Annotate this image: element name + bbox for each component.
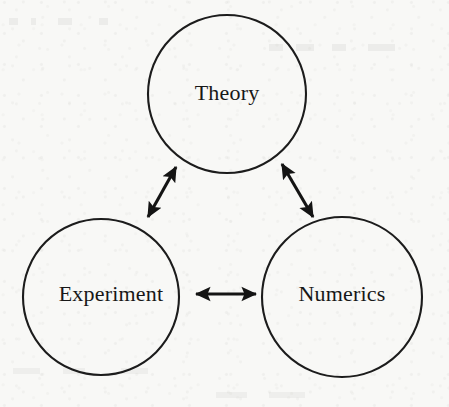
experiment-label: Experiment — [59, 281, 164, 306]
arrow-theory-experiment[interactable] — [148, 167, 176, 217]
diagram-canvas: Theory Experiment Numerics — [0, 0, 449, 407]
node-experiment[interactable]: Experiment — [23, 219, 179, 375]
numerics-label: Numerics — [298, 281, 385, 306]
arrow-theory-numerics[interactable] — [282, 164, 313, 217]
theory-label: Theory — [195, 80, 260, 105]
node-theory[interactable]: Theory — [148, 15, 306, 173]
triangle-diagram: Theory Experiment Numerics — [0, 0, 449, 407]
node-numerics[interactable]: Numerics — [262, 217, 422, 377]
link-group — [148, 164, 313, 294]
